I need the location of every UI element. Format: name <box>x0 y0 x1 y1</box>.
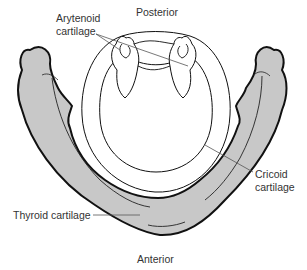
label-anterior: Anterior <box>137 253 174 265</box>
larynx-diagram: Posterior Arytenoid cartilage Cricoid ca… <box>0 0 307 270</box>
label-arytenoid-line2: cartilage <box>56 25 96 37</box>
label-arytenoid-line1: Arytenoid <box>56 12 101 24</box>
label-posterior: Posterior <box>136 6 179 18</box>
label-cricoid-line2: cartilage <box>255 181 295 193</box>
label-cricoid-line1: Cricoid <box>255 168 288 180</box>
label-thyroid: Thyroid cartilage <box>13 209 91 221</box>
